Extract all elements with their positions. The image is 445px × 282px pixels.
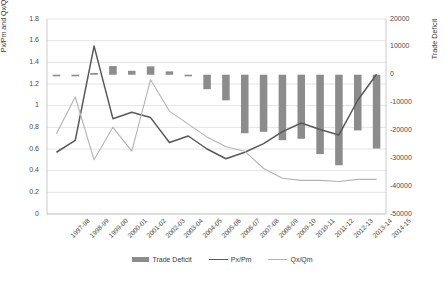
line-swatch-dark-icon bbox=[209, 259, 228, 260]
bar-9 bbox=[222, 75, 230, 101]
bar-15 bbox=[335, 75, 343, 166]
bar-7 bbox=[184, 75, 192, 77]
bar-3 bbox=[109, 66, 117, 75]
bar-1 bbox=[71, 75, 79, 77]
plot-area bbox=[0, 0, 445, 282]
bar-8 bbox=[203, 75, 211, 89]
bar-11 bbox=[260, 75, 268, 132]
bar-6 bbox=[166, 71, 174, 74]
bar-14 bbox=[316, 75, 324, 154]
bar-16 bbox=[354, 75, 362, 131]
legend-item-qx-qm: Qx/Qm bbox=[268, 256, 312, 263]
legend-item-px-pm: Px/Pm bbox=[209, 256, 252, 263]
legend-label-qx-qm: Qx/Qm bbox=[290, 256, 312, 263]
line-swatch-light-icon bbox=[268, 259, 287, 260]
bar-swatch-icon bbox=[132, 257, 149, 262]
bar-4 bbox=[128, 71, 136, 75]
legend-item-trade-deficit: Trade Deficit bbox=[132, 256, 191, 263]
bar-0 bbox=[53, 75, 61, 77]
bar-13 bbox=[297, 75, 305, 139]
bar-10 bbox=[241, 75, 249, 134]
bar-17 bbox=[373, 75, 381, 149]
legend-label-trade-deficit: Trade Deficit bbox=[152, 256, 191, 263]
bar-5 bbox=[147, 66, 155, 74]
bar-2 bbox=[90, 73, 98, 75]
trade-deficit-chart: Px/Pm and Qx/Qm Trade Deficit 00.20.40.6… bbox=[0, 0, 445, 282]
chart-legend: Trade Deficit Px/Pm Qx/Qm bbox=[0, 256, 445, 263]
legend-label-px-pm: Px/Pm bbox=[231, 256, 252, 263]
